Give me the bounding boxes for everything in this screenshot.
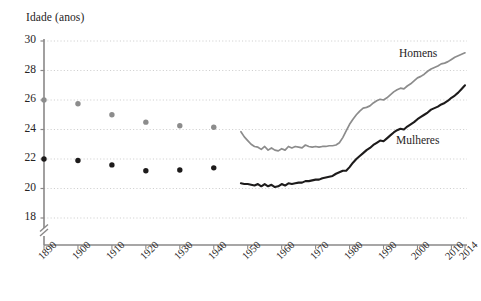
series-label-mulheres: Mulheres [396,134,439,146]
series-marker-mulheres [143,168,148,173]
y-tick-label: 22 [10,151,36,163]
series-marker-homens [75,101,80,106]
series-marker-mulheres [109,162,114,167]
series-label-homens: Homens [399,47,437,59]
series-marker-mulheres [75,158,80,163]
chart-container: Idade (anos) Homens Mulheres 30282624222… [0,0,481,301]
series-markers-group [41,97,216,173]
series-marker-mulheres [211,165,216,170]
series-marker-homens [143,119,148,124]
y-tick-label: 28 [10,63,36,75]
series-marker-homens [41,97,46,102]
y-tick-label: 20 [10,181,36,193]
series-marker-homens [109,112,114,117]
series-lines-group [241,53,465,187]
y-tick-label: 18 [10,210,36,222]
series-marker-mulheres [41,156,46,161]
y-tick-label: 24 [10,122,36,134]
series-marker-homens [211,125,216,130]
y-tick-label: 26 [10,92,36,104]
y-tick-label: 30 [10,33,36,45]
series-marker-homens [177,123,182,128]
series-marker-mulheres [177,167,182,172]
